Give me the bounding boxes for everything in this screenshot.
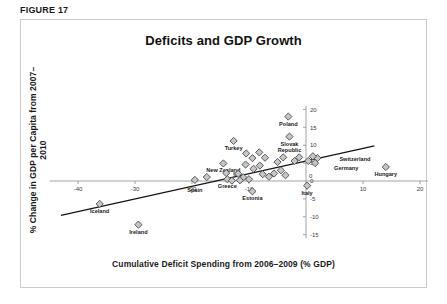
chart-panel: Deficits and GDP Growth % Change in GDP … — [20, 19, 427, 288]
x-tick-label: -40 — [74, 186, 83, 192]
y-tick-label: -5 — [310, 196, 316, 202]
data-point-label: Switzerland — [339, 156, 371, 162]
data-point-marker[interactable] — [250, 165, 257, 172]
data-point-marker[interactable] — [286, 133, 293, 140]
data-point-label: Germany — [334, 165, 359, 171]
data-point-label: Spain — [187, 187, 203, 193]
plot-area: -40-30-20-1001020-15-10-505101520 Poland… — [21, 20, 428, 289]
data-point-marker[interactable] — [249, 154, 256, 161]
x-tick-label: 20 — [417, 186, 424, 192]
scatter-plot-svg: -40-30-20-1001020-15-10-505101520 Poland… — [21, 20, 428, 289]
data-point-label: Poland — [279, 121, 298, 127]
data-point-marker[interactable] — [261, 154, 268, 161]
data-point-marker[interactable] — [242, 161, 249, 168]
data-point-label: SlovakRepublic — [278, 141, 302, 153]
data-point-marker[interactable] — [285, 113, 292, 120]
data-point-label: Ireland — [129, 229, 148, 235]
y-tick-label: 20 — [310, 107, 317, 113]
data-point-marker[interactable] — [135, 221, 142, 228]
data-point-label: Hungary — [374, 171, 398, 177]
y-tick-label: 10 — [310, 142, 317, 148]
data-point-label: Iceland — [90, 208, 110, 214]
figure-caption: FIGURE 17 — [20, 5, 68, 15]
y-tick-label: 15 — [310, 125, 317, 131]
data-point-label: Turkey — [225, 145, 244, 151]
figure-root: FIGURE 17 Deficits and GDP Growth % Chan… — [0, 0, 447, 304]
data-point-marker[interactable] — [203, 173, 210, 180]
x-tick-label: 10 — [360, 186, 367, 192]
data-point-marker[interactable] — [382, 163, 389, 170]
data-point-marker[interactable] — [243, 150, 250, 157]
data-point-marker[interactable] — [230, 137, 237, 144]
data-point-marker[interactable] — [256, 162, 263, 169]
data-point-marker[interactable] — [256, 149, 263, 156]
data-point-marker[interactable] — [274, 158, 281, 165]
data-points-group: PolandSlovakRepublicTurkeyNew ZealandUSS… — [90, 113, 398, 235]
y-tick-label: -15 — [310, 232, 319, 238]
x-tick-label: -30 — [131, 186, 140, 192]
data-point-label: Estonia — [242, 195, 263, 201]
data-point-label: Greece — [218, 183, 237, 189]
data-point-marker[interactable] — [282, 172, 289, 179]
y-tick-label: -10 — [310, 214, 319, 220]
data-point-label: Italy — [302, 190, 314, 196]
x-axis-title: Cumulative Deficit Spending from 2006–20… — [21, 259, 426, 269]
data-point-marker[interactable] — [280, 154, 287, 161]
data-point-marker[interactable] — [220, 160, 227, 167]
